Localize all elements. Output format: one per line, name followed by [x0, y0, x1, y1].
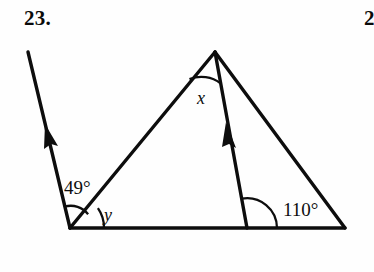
angle-label-y: y — [104, 206, 112, 224]
angle-label-110: 110° — [283, 200, 318, 219]
angle-label-x: x — [197, 89, 205, 107]
segment-right-side — [215, 52, 345, 228]
geometry-diagram — [0, 0, 374, 272]
angle-arc-x — [190, 77, 221, 84]
worksheet-figure-page: 23. 2 49° y x 110° — [0, 0, 374, 272]
angle-label-49: 49° — [64, 178, 91, 197]
